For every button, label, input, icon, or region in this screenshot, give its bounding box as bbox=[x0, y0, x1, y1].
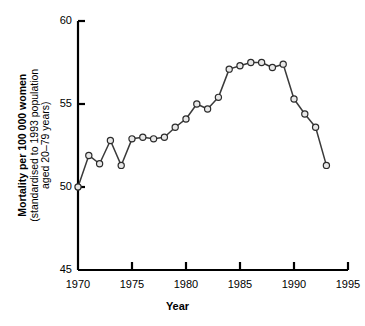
x-tick-label-1970: 1970 bbox=[53, 278, 103, 290]
data-point-1978 bbox=[161, 134, 167, 140]
x-tick-label-1975: 1975 bbox=[107, 278, 157, 290]
data-point-1973 bbox=[107, 137, 113, 143]
data-point-1971 bbox=[86, 152, 92, 158]
data-point-1982 bbox=[205, 106, 211, 112]
data-point-1972 bbox=[97, 161, 103, 167]
data-point-1986 bbox=[248, 59, 254, 65]
data-line bbox=[78, 63, 326, 188]
data-point-1979 bbox=[172, 124, 178, 130]
x-tick-label-1985: 1985 bbox=[215, 278, 265, 290]
data-point-1991 bbox=[302, 111, 308, 117]
data-point-1990 bbox=[291, 96, 297, 102]
y-tick-label-60: 60 bbox=[34, 14, 72, 26]
data-point-1980 bbox=[183, 116, 189, 122]
x-tick-label-1990: 1990 bbox=[269, 278, 319, 290]
data-point-1970 bbox=[75, 184, 81, 190]
data-point-1984 bbox=[226, 66, 232, 72]
data-point-1977 bbox=[151, 136, 157, 142]
data-point-1983 bbox=[215, 94, 221, 100]
data-point-1987 bbox=[259, 59, 265, 65]
data-point-1985 bbox=[237, 63, 243, 69]
data-point-1975 bbox=[129, 136, 135, 142]
data-point-1988 bbox=[269, 64, 275, 70]
y-tick-label-55: 55 bbox=[34, 97, 72, 109]
x-tick-label-1980: 1980 bbox=[161, 278, 211, 290]
x-tick-label-1995: 1995 bbox=[323, 278, 365, 290]
y-tick-label-50: 50 bbox=[34, 180, 72, 192]
data-point-1974 bbox=[118, 162, 124, 168]
data-point-1993 bbox=[323, 162, 329, 168]
y-tick-label-45: 45 bbox=[34, 263, 72, 275]
data-point-1976 bbox=[140, 134, 146, 140]
data-point-1992 bbox=[313, 124, 319, 130]
data-point-1981 bbox=[194, 101, 200, 107]
data-point-1989 bbox=[280, 61, 286, 67]
